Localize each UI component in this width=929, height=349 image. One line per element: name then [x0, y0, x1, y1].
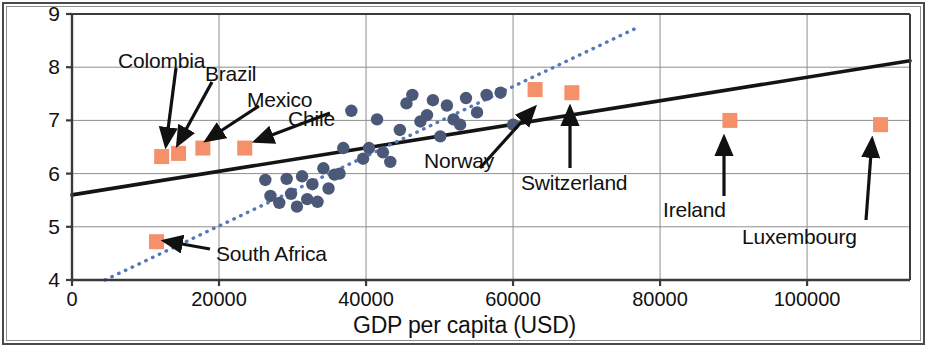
annotation-label-norway: Norway [424, 150, 494, 171]
annotation-label-colombia: Colombia [118, 50, 205, 71]
x-tick-label: 100000 [774, 289, 841, 309]
annotation-label-ireland: Ireland [663, 199, 726, 220]
annotation-label-south-africa: South Africa [216, 243, 327, 264]
x-tick-label: 20000 [191, 289, 247, 309]
y-tick-label: 9 [34, 3, 60, 24]
y-tick-label: 8 [34, 56, 60, 77]
x-tick-label: 0 [66, 289, 77, 309]
x-tick-label: 60000 [485, 289, 541, 309]
x-tick-label: 80000 [632, 289, 688, 309]
annotation-label-switzerland: Switzerland [521, 172, 627, 193]
scatter-chart-figure: 456789 020000400006000080000100000 Life … [0, 0, 929, 349]
plot-area: ColombiaBrazilMexicoChileNorwaySwitzerla… [72, 14, 910, 280]
annotation-label-brazil: Brazil [205, 63, 256, 84]
y-tick-label: 7 [34, 109, 60, 130]
annotation-label-chile: Chile [288, 108, 335, 129]
x-axis-title: GDP per capita (USD) [0, 312, 929, 339]
y-tick-label: 5 [34, 216, 60, 237]
y-tick-label: 4 [34, 269, 60, 290]
annotation-label-luxembourg: Luxembourg [742, 226, 857, 247]
y-tick-label: 6 [34, 163, 60, 184]
x-tick-label: 40000 [338, 289, 394, 309]
